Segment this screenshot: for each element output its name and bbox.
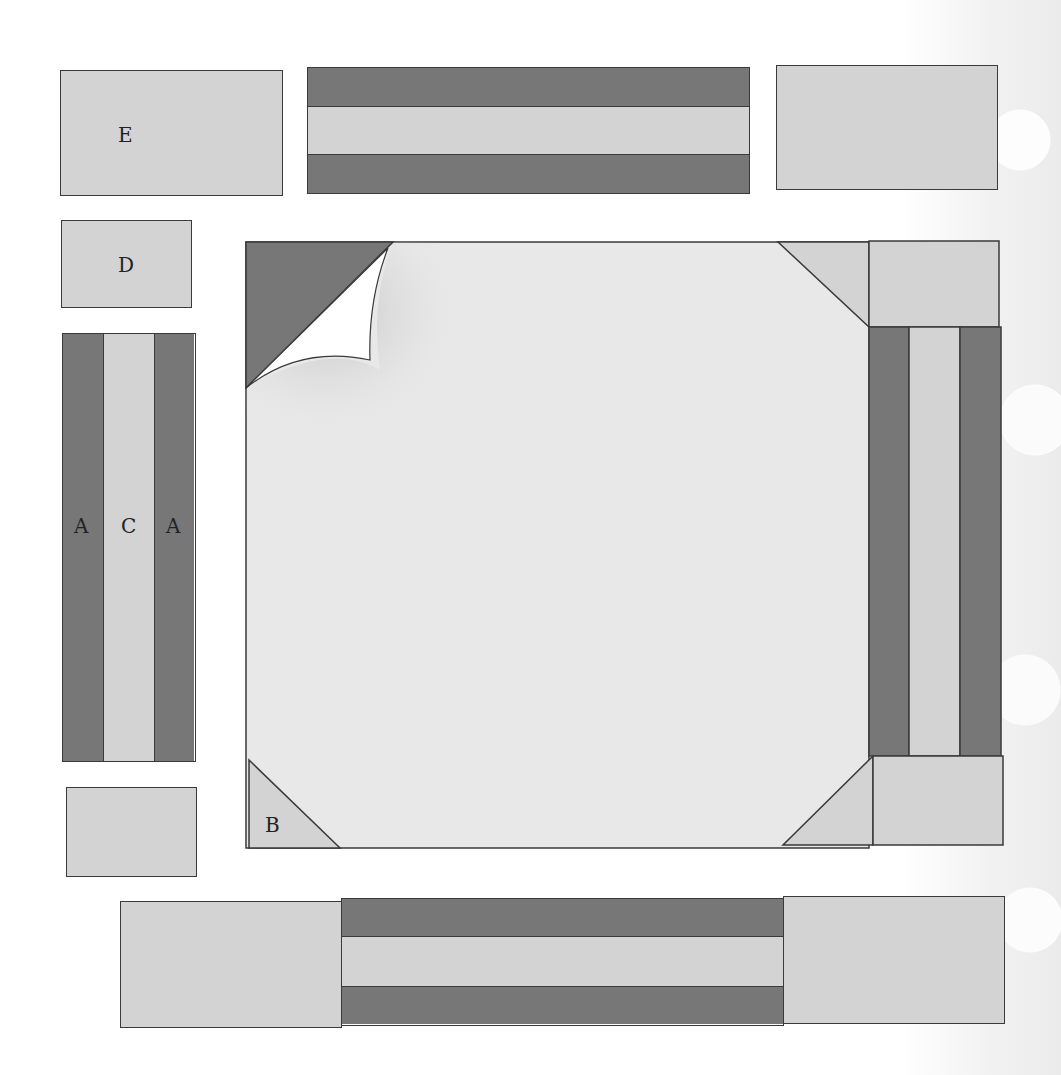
right-strip-dark-1 bbox=[869, 327, 909, 756]
bottom-strip-light bbox=[342, 937, 783, 987]
right-top-square bbox=[869, 241, 999, 327]
bottom-right-rect bbox=[783, 896, 1005, 1024]
bottom-strip-dark-2 bbox=[342, 987, 783, 1024]
bottom-strip-dark-1 bbox=[342, 899, 783, 937]
label-b: B bbox=[265, 813, 280, 837]
bottom-strip-set bbox=[341, 898, 784, 1026]
right-strip-light bbox=[909, 327, 960, 756]
bottom-left-rect bbox=[120, 901, 342, 1028]
right-bottom-square bbox=[873, 756, 1003, 845]
right-strip-dark-2 bbox=[960, 327, 1001, 756]
